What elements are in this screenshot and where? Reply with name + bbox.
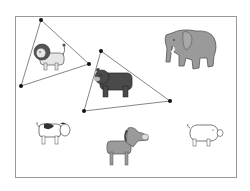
vertex-handle[interactable] [168, 99, 172, 103]
vertex-handle[interactable] [87, 62, 91, 66]
vertex-handle[interactable] [82, 109, 86, 113]
vertex-handle[interactable] [19, 84, 23, 88]
vertex-handle[interactable] [39, 18, 43, 22]
vertex-handle[interactable] [99, 49, 103, 53]
game-canvas[interactable] [0, 0, 250, 191]
